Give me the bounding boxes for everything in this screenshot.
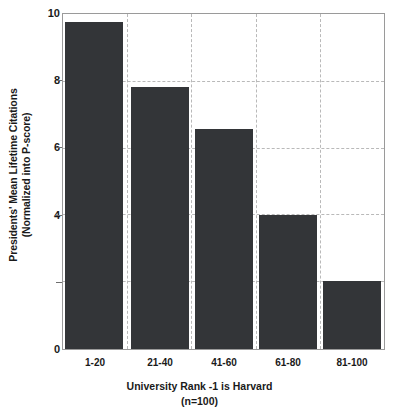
gridline-x-1 bbox=[127, 14, 128, 349]
x-tick-label-1-20: 1-20 bbox=[62, 357, 128, 369]
y-tick-label-0: 0 bbox=[20, 344, 60, 355]
bar-41-60 bbox=[195, 129, 253, 349]
y-axis-title-line-2: (Normalized into P-score) bbox=[20, 88, 33, 261]
y-tick-label-10: 10 bbox=[20, 8, 60, 19]
y-tick-label-4: 4 bbox=[20, 210, 60, 221]
x-tick-label-81-100: 81-100 bbox=[319, 357, 385, 369]
gridline-x-2 bbox=[191, 14, 192, 349]
y-axis-title: Presidents' Mean Lifetime Citations (Nor… bbox=[0, 0, 40, 350]
x-axis-title-line-1: University Rank -1 is Harvard bbox=[0, 379, 399, 394]
x-axis-title-line-2: (n=100) bbox=[0, 394, 399, 409]
plot-area bbox=[62, 13, 385, 350]
gridline-x-3 bbox=[256, 14, 257, 349]
x-tick-label-61-80: 61-80 bbox=[255, 357, 321, 369]
bar-chart-figure: Presidents' Mean Lifetime Citations (Nor… bbox=[0, 0, 399, 418]
y-axis-title-line-1: Presidents' Mean Lifetime Citations bbox=[7, 88, 20, 261]
y-tick-label-6: 6 bbox=[20, 142, 60, 153]
bar-1-20 bbox=[65, 22, 123, 349]
x-tick-label-21-40: 21-40 bbox=[127, 357, 193, 369]
y-tick-label-8: 8 bbox=[20, 75, 60, 86]
x-tick-label-41-60: 41-60 bbox=[191, 357, 257, 369]
gridline-x-4 bbox=[320, 14, 321, 349]
x-axis-title: University Rank -1 is Harvard (n=100) bbox=[0, 379, 399, 409]
bar-21-40 bbox=[131, 87, 189, 349]
bar-81-100 bbox=[323, 281, 381, 349]
bar-61-80 bbox=[259, 215, 317, 349]
